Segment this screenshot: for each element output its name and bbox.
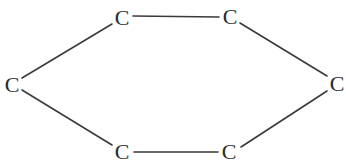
atoms: C C C C C C [5,4,345,164]
bond-c4-c5 [241,91,327,147]
bond-c2-c3 [133,16,219,17]
carbon-ring-diagram: C C C C C C [0,0,346,167]
bonds [22,16,327,152]
bond-c3-c4 [240,23,327,76]
atom-c6: C [115,139,130,164]
atom-c3: C [223,4,238,29]
bond-c6-c1 [22,90,112,145]
bond-c1-c2 [22,24,112,78]
atom-c4: C [330,71,345,96]
atom-c1: C [5,72,20,97]
atom-c2: C [115,5,130,30]
atom-c5: C [222,139,237,164]
